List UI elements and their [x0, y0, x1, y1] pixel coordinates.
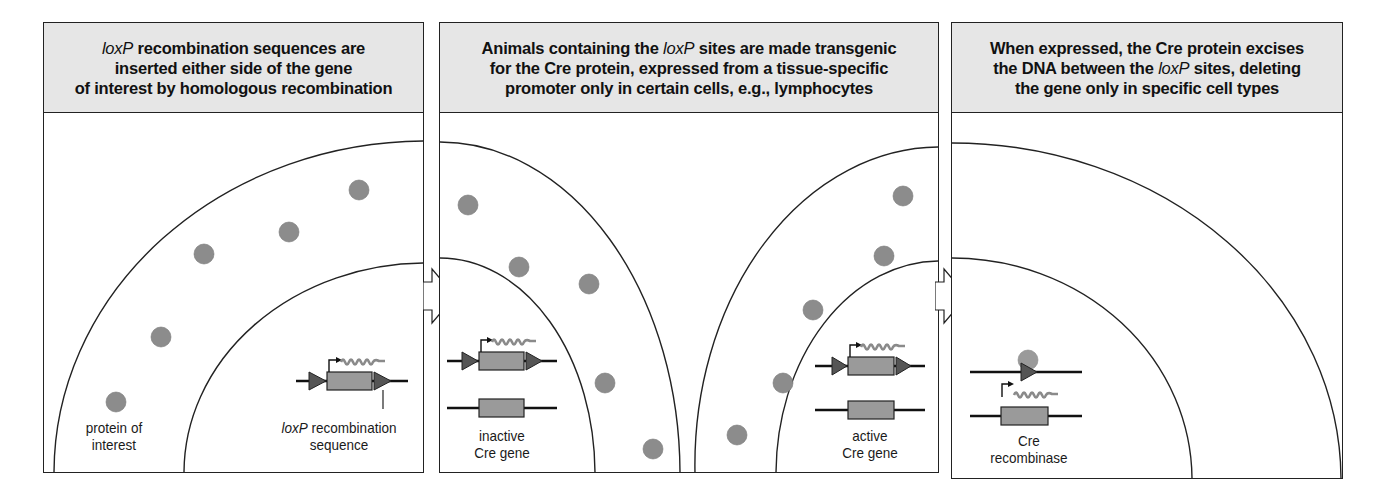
- protein-icon: [349, 180, 369, 200]
- protein-icon: [773, 373, 793, 393]
- excised-locus: [970, 350, 1082, 381]
- panel-3-caption: When expressed, the Cre protein excises …: [952, 23, 1342, 113]
- gene-icon: [479, 352, 524, 370]
- protein-of-interest-label: protein of interest: [65, 419, 162, 453]
- gene-icon: [479, 399, 524, 417]
- protein-icon: [893, 186, 913, 206]
- gene-icon: [327, 372, 372, 390]
- loxp-site-icon: [832, 357, 847, 375]
- floxed-gene-construct: [447, 337, 557, 370]
- loxp-term: loxP: [663, 39, 694, 57]
- loxp-site-icon: [374, 372, 391, 390]
- protein-icon: [643, 439, 663, 459]
- promoter-icon: [1002, 384, 1008, 397]
- protein-icon: [595, 373, 615, 393]
- loxp-sequence-label: loxP recombination sequence: [263, 419, 416, 453]
- protein-icon: [151, 327, 171, 347]
- loxp-term: loxP: [102, 39, 133, 57]
- mrna-icon: [1014, 393, 1058, 398]
- cell-membrane-arc: [952, 143, 1341, 478]
- panel-step-3: When expressed, the Cre protein excises …: [951, 22, 1343, 479]
- protein-icon: [106, 392, 126, 412]
- protein-icons: [458, 186, 913, 459]
- loxp-site-icon: [526, 352, 542, 370]
- active-cre-gene: [815, 401, 925, 419]
- protein-icon: [874, 246, 894, 266]
- panel-step-1: loxP recombination sequences are inserte…: [43, 22, 424, 473]
- panel-1-caption: loxP recombination sequences are inserte…: [44, 23, 423, 113]
- protein-icon: [458, 195, 478, 215]
- inactive-cre-gene: [447, 399, 557, 417]
- loxp-site-icon: [309, 372, 326, 390]
- mrna-icon: [492, 340, 536, 345]
- inactive-cre-gene-label: inactive Cre gene: [448, 427, 556, 461]
- mrna-icon: [341, 360, 385, 365]
- protein-icon: [727, 425, 747, 445]
- promoter-icon: [481, 340, 487, 352]
- active-cre-gene-label: active Cre gene: [816, 427, 924, 461]
- panel-3-diagram: Cre recombinase: [952, 113, 1342, 478]
- protein-icon: [803, 300, 823, 320]
- gene-icon: [1001, 407, 1048, 425]
- mrna-icon: [861, 345, 905, 350]
- cre-recombinase-label: Cre recombinase: [980, 432, 1079, 466]
- panel-2-diagram: inactive Cre gene active Cre gene: [440, 113, 938, 472]
- gene-icon: [848, 401, 894, 419]
- loxp-site-icon: [896, 357, 911, 375]
- protein-icon: [279, 222, 299, 242]
- protein-icon: [194, 244, 214, 264]
- protein-icon: [509, 257, 529, 277]
- panel-2-caption: Animals containing the loxP sites are ma…: [440, 23, 938, 113]
- panel-step-2: Animals containing the loxP sites are ma…: [439, 22, 939, 473]
- floxed-gene-construct: [296, 357, 408, 409]
- promoter-icon: [329, 360, 336, 372]
- floxed-gene-construct: [815, 342, 925, 375]
- loxp-term: loxP: [1158, 59, 1189, 77]
- protein-icon: [579, 274, 599, 294]
- gene-icon: [848, 357, 894, 375]
- promoter-icon: [850, 345, 856, 357]
- panel-1-diagram: protein of interest loxP recombination s…: [44, 113, 423, 472]
- loxp-site-icon: [462, 352, 478, 370]
- cell-membrane-arc-left: [440, 142, 680, 472]
- cre-gene-expressing: [970, 381, 1082, 425]
